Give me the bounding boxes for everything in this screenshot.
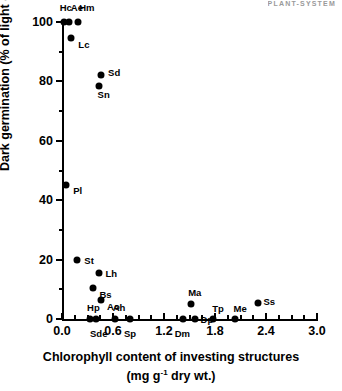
data-point-Ae	[65, 19, 72, 26]
data-point-label-Lc: Lc	[78, 40, 89, 50]
data-point-label-Me: Me	[234, 304, 247, 314]
y-tick-60	[56, 140, 64, 142]
x-tick-0.90	[138, 315, 140, 320]
x-axis-title: Chlorophyll content of investing structu…	[0, 350, 342, 384]
y-tick-label-40: 40	[39, 193, 53, 207]
scatter-chart-figure: PLANT-SYSTEM Dark germination (% of ligh…	[0, 0, 342, 391]
x-tick-label-1.2: 1.2	[155, 324, 172, 338]
y-tick-label-0: 0	[46, 312, 53, 326]
x-tick-1.05	[150, 315, 152, 320]
y-tick-20	[56, 259, 64, 261]
data-point-Hm	[75, 19, 82, 26]
data-point-Ah	[111, 316, 118, 323]
data-point-Lh	[96, 269, 103, 276]
data-point-label-Hp: Hp	[87, 303, 100, 313]
data-point-Sd	[98, 72, 105, 79]
data-point-label-St: St	[84, 256, 94, 266]
x-tick-2.10	[240, 315, 242, 320]
y-axis-title: Dark germination (% of light germination…	[0, 0, 12, 171]
data-point-St	[74, 256, 81, 263]
y-axis-line	[62, 22, 64, 321]
data-point-label-Sn: Sn	[98, 90, 110, 100]
data-point-label-Tp: Tp	[212, 304, 224, 314]
y-tick-40	[56, 199, 64, 201]
data-point-Dm	[179, 316, 186, 323]
data-point-Pl	[63, 182, 70, 189]
y-tick-10	[59, 288, 64, 290]
x-tick-0.00	[61, 313, 63, 320]
data-point-label-Dm: Dm	[175, 329, 190, 339]
x-tick-2.55	[278, 315, 280, 320]
data-point-label-Ma: Ma	[188, 288, 201, 298]
data-point-Lc	[68, 35, 75, 42]
x-tick-1.20	[163, 313, 165, 320]
x-tick-2.40	[265, 313, 267, 320]
data-point-Sde	[93, 316, 100, 323]
y-tick-70	[59, 110, 64, 112]
data-point-label-Sd: Sd	[108, 68, 120, 78]
x-axis-title-units: (mg g-1 dry wt.)	[0, 365, 342, 384]
data-point-label-Lh: Lh	[105, 269, 117, 279]
x-tick-0.15	[74, 315, 76, 320]
y-tick-90	[59, 51, 64, 53]
x-tick-2.70	[291, 315, 293, 320]
x-axis-title-line1: Chlorophyll content of investing structu…	[43, 350, 299, 364]
data-point-Ss	[254, 299, 261, 306]
y-tick-label-80: 80	[39, 74, 53, 88]
data-point-Me	[231, 316, 238, 323]
x-tick-2.25	[252, 315, 254, 320]
data-point-label-Hm: Hm	[79, 3, 94, 13]
data-point-label-Ah: Ah	[113, 303, 126, 313]
data-point-Bs	[90, 284, 97, 291]
x-tick-0.45	[99, 315, 101, 320]
x-tick-label-1.8: 1.8	[206, 324, 223, 338]
y-tick-label-60: 60	[39, 134, 53, 148]
data-point-label-Sp: Sp	[124, 329, 136, 339]
x-tick-1.35	[176, 315, 178, 320]
y-tick-label-20: 20	[39, 253, 53, 267]
x-tick-3.00	[316, 313, 318, 320]
data-point-Dp	[191, 316, 198, 323]
data-point-Tp	[210, 316, 217, 323]
data-point-Ma	[188, 301, 195, 308]
x-tick-label-3.0: 3.0	[308, 324, 325, 338]
data-point-label-Pl: Pl	[73, 186, 82, 196]
plot-area: 020406080100 0.00.61.21.82.43.0 HcAeHmLc…	[62, 22, 317, 320]
x-tick-label-0.0: 0.0	[53, 324, 70, 338]
x-tick-2.85	[303, 315, 305, 320]
x-tick-1.95	[227, 315, 229, 320]
data-point-label-Sde: Sde	[90, 329, 107, 339]
y-tick-50	[59, 170, 64, 172]
y-tick-80	[56, 80, 64, 82]
data-point-label-Ss: Ss	[264, 297, 276, 307]
running-head: PLANT-SYSTEM	[268, 0, 336, 7]
data-point-Sp	[127, 316, 134, 323]
y-tick-30	[59, 229, 64, 231]
x-tick-label-2.4: 2.4	[257, 324, 274, 338]
y-tick-label-100: 100	[32, 15, 53, 29]
